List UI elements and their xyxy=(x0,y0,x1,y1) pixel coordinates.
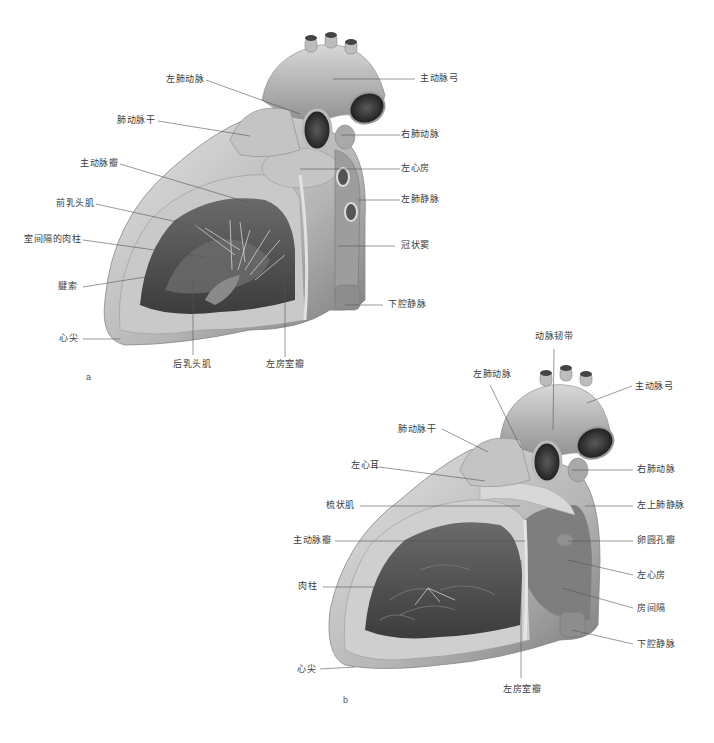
label-b-ligamentum-arteriosum: 动脉韧带 xyxy=(535,331,573,342)
label-a-aortic-valve: 主动脉瓣 xyxy=(80,158,118,169)
label-b-pulmonary-trunk: 肺动脉干 xyxy=(398,424,436,435)
label-b-interatrial-septum: 房间隔 xyxy=(637,603,666,614)
panel-b-letter: b xyxy=(343,695,348,705)
label-b-left-atrium: 左心房 xyxy=(637,570,666,581)
label-b-pectinate-muscles: 梳状肌 xyxy=(326,500,355,511)
label-a-anterior-papillary-muscle: 前乳头肌 xyxy=(56,198,94,209)
label-a-posterior-papillary-muscle: 后乳头肌 xyxy=(173,359,211,370)
label-a-septal-trabeculae: 室间隔的肉柱 xyxy=(24,234,81,245)
heart-anatomy-figure: 主动脉弓 左肺动脉 肺动脉干 右肺动脉 主动脉瓣 左心房 前乳头肌 左肺静脉 室… xyxy=(0,0,714,743)
label-b-mitral-valve: 左房室瓣 xyxy=(503,684,541,695)
label-b-foramen-ovale-valve: 卵圆孔瓣 xyxy=(637,535,675,546)
label-a-inferior-vena-cava: 下腔静脉 xyxy=(388,299,426,310)
label-b-aortic-valve: 主动脉瓣 xyxy=(293,535,331,546)
label-a-left-pulmonary-artery: 左肺动脉 xyxy=(166,74,204,85)
panel-a-letter: a xyxy=(86,372,91,382)
label-a-chordae-tendineae: 腱索 xyxy=(58,281,77,292)
label-a-coronary-sinus: 冠状窦 xyxy=(401,240,430,251)
leader-lines xyxy=(0,0,714,743)
label-b-left-pulmonary-artery: 左肺动脉 xyxy=(473,369,511,380)
label-a-right-pulmonary-artery: 右肺动脉 xyxy=(401,129,439,140)
label-b-aortic-arch: 主动脉弓 xyxy=(635,381,673,392)
label-b-trabeculae-carneae: 肉柱 xyxy=(298,581,317,592)
label-b-inferior-vena-cava: 下腔静脉 xyxy=(637,639,675,650)
label-b-right-pulmonary-artery: 右肺动脉 xyxy=(637,464,675,475)
label-a-mitral-valve: 左房室瓣 xyxy=(266,359,304,370)
label-a-pulmonary-trunk: 肺动脉干 xyxy=(117,115,155,126)
label-b-left-superior-pulmonary-vein: 左上肺静脉 xyxy=(637,500,685,511)
label-b-apex: 心尖 xyxy=(297,664,316,675)
label-a-left-atrium: 左心房 xyxy=(401,163,430,174)
label-a-aortic-arch: 主动脉弓 xyxy=(420,73,458,84)
label-b-left-auricle: 左心耳 xyxy=(351,460,380,471)
label-a-left-pulmonary-veins: 左肺静脉 xyxy=(401,194,439,205)
label-a-apex: 心尖 xyxy=(59,333,78,344)
